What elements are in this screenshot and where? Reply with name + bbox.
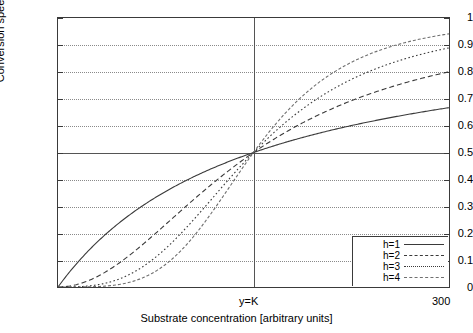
legend-item-h3: h=3 [357, 261, 444, 272]
x-tick-label-k: y=K [239, 296, 258, 307]
y-tick-mark [58, 287, 63, 288]
legend-swatch-h4 [404, 277, 444, 278]
x-axis-title: Substrate concentration [arbitrary units… [0, 312, 473, 324]
legend-label: h=4 [383, 273, 400, 283]
y-axis-title: Conversion speed [arbitrary units] [0, 0, 6, 95]
legend-swatch-h1 [404, 244, 444, 245]
legend-label: h=1 [383, 240, 400, 250]
legend-label: h=2 [383, 251, 400, 261]
y-tick-mark-right [444, 287, 449, 288]
legend-item-h1: h=1 [357, 239, 444, 250]
x-tick-label-max: 300 [432, 296, 450, 307]
legend-item-h4: h=4 [357, 272, 444, 283]
legend-label: h=3 [383, 262, 400, 272]
legend-item-h2: h=2 [357, 250, 444, 261]
plot-area: h=1 h=2 h=3 h=4 [57, 17, 450, 288]
legend: h=1 h=2 h=3 h=4 [352, 236, 448, 286]
chart-figure: Conversion speed [arbitrary units] 1 0.9… [0, 0, 473, 333]
legend-swatch-h2 [404, 255, 444, 256]
legend-swatch-h3 [404, 266, 444, 267]
